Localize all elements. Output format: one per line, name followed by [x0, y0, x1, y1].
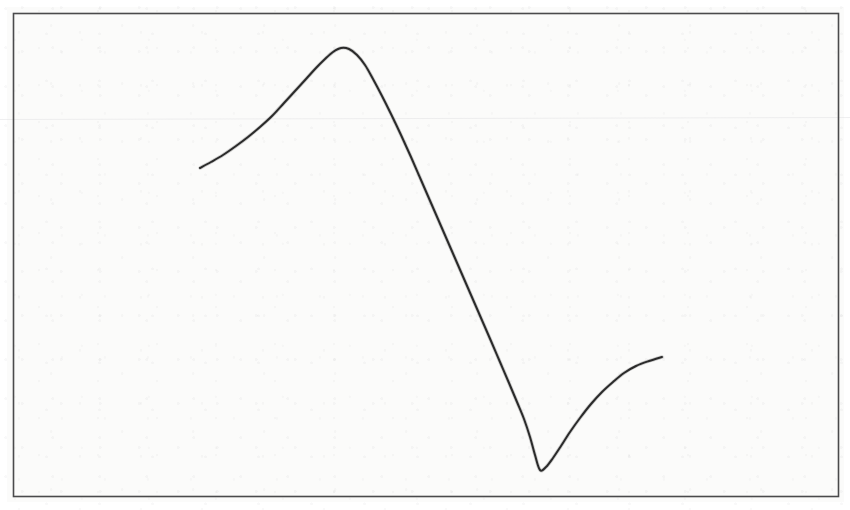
chart-canvas [0, 0, 850, 510]
figure-root [0, 0, 850, 510]
